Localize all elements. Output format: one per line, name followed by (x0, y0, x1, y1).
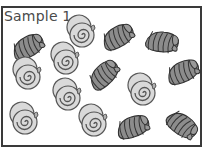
spiral-shell-icon (51, 42, 79, 74)
striped-shell-icon (145, 29, 180, 54)
spiral-shell-icon (10, 102, 38, 134)
striped-shell-icon (99, 21, 137, 53)
spiral-shell-icon (79, 104, 107, 136)
striped-shell-icon (163, 107, 201, 143)
shells-canvas (0, 0, 206, 153)
spiral-shell-icon (13, 57, 41, 89)
striped-shell-icon (85, 57, 123, 93)
spiral-shell-icon (53, 78, 81, 110)
spiral-shell-icon (128, 73, 156, 105)
spiral-shell-icon (67, 15, 95, 47)
striped-shell-icon (164, 57, 201, 87)
striped-shell-icon (115, 113, 151, 141)
